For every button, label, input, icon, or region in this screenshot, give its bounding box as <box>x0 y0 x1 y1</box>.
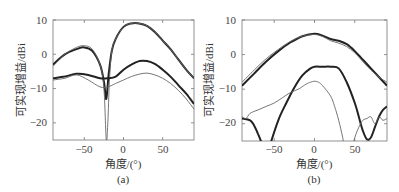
ylabel-b: 可实现增益/dBi <box>202 43 215 117</box>
caption-a: (a) <box>117 173 130 186</box>
xtick-a-0: 0 <box>120 143 126 155</box>
series-thick-low <box>53 61 194 104</box>
caption-b: (b) <box>308 173 321 186</box>
panel-a: 10 0 −10 −20 −50 0 50 角度/(°) (a) 可实现增益/d… <box>14 14 194 186</box>
series-thick-main <box>242 34 387 86</box>
xtick-b-m50: −50 <box>265 143 283 155</box>
ylabel-a: 可实现增益/dBi <box>14 43 27 117</box>
ytick-b-m10: −10 <box>219 82 237 94</box>
ytick-a-0: 0 <box>42 48 48 60</box>
ticks-b <box>242 20 387 141</box>
ytick-b-0: 0 <box>231 48 237 60</box>
panel-b: 10 0 −10 −20 −50 0 50 角度/(°) (b) 可实现增益/d… <box>202 14 387 186</box>
series-thin-main <box>242 35 387 83</box>
series-a <box>53 23 194 141</box>
ytick-b-10: 10 <box>225 14 237 26</box>
series-thin-main-lobe <box>53 23 194 141</box>
plot-frame-b <box>242 20 387 141</box>
xtick-b-50: 50 <box>350 143 362 155</box>
ytick-a-m10: −10 <box>30 82 48 94</box>
series-thick-main-lobe <box>53 23 194 99</box>
xtick-b-0: 0 <box>311 143 317 155</box>
xtick-a-m50: −50 <box>75 143 93 155</box>
ytick-b-m20: −20 <box>219 116 237 128</box>
ytick-a-10: 10 <box>36 14 48 26</box>
xlabel-a: 角度/(°) <box>105 157 142 171</box>
figure: 10 0 −10 −20 −50 0 50 角度/(°) (a) 可实现增益/d… <box>0 0 399 192</box>
xlabel-b: 角度/(°) <box>296 157 333 171</box>
ytick-a-m20: −20 <box>30 116 48 128</box>
xtick-a-50: 50 <box>158 143 170 155</box>
